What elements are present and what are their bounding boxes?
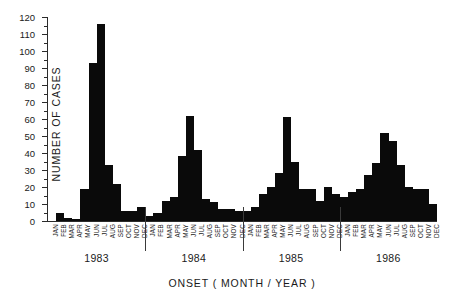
bar-series bbox=[48, 17, 437, 221]
x-tick-cell: JUL bbox=[194, 224, 202, 250]
bar bbox=[243, 211, 251, 221]
y-tick-minor bbox=[44, 213, 47, 214]
x-tick-cell: SEP bbox=[308, 224, 316, 250]
bar bbox=[267, 187, 275, 221]
x-tick-cell: APR bbox=[364, 224, 372, 250]
x-tick-cell: NOV bbox=[324, 224, 332, 250]
x-tick-cell: OCT bbox=[413, 224, 421, 250]
bar bbox=[137, 207, 145, 221]
y-tick-label: 20 bbox=[24, 182, 35, 193]
y-tick-label: 10 bbox=[24, 199, 35, 210]
y-tick-major: 70 bbox=[42, 102, 47, 103]
x-tick-cell: AUG bbox=[299, 224, 307, 250]
x-tick-cell: APR bbox=[72, 224, 80, 250]
bar bbox=[380, 133, 388, 221]
bar bbox=[178, 156, 186, 221]
x-tick-cell: JUL bbox=[291, 224, 299, 250]
x-tick-cell: NOV bbox=[129, 224, 137, 250]
x-tick-cell: AUG bbox=[202, 224, 210, 250]
x-tick-cell: APR bbox=[267, 224, 275, 250]
y-tick-major: 50 bbox=[42, 136, 47, 137]
x-tick-cell: DEC bbox=[332, 224, 340, 250]
y-tick-major: 0 bbox=[42, 221, 47, 222]
x-tick-cell: FEB bbox=[251, 224, 259, 250]
y-tick-minor bbox=[44, 162, 47, 163]
bar bbox=[226, 209, 234, 221]
bar bbox=[72, 219, 80, 221]
bar bbox=[405, 187, 413, 221]
y-tick-minor bbox=[44, 145, 47, 146]
x-tick-cell: OCT bbox=[316, 224, 324, 250]
x-tick-cell: JUL bbox=[97, 224, 105, 250]
bar bbox=[316, 201, 324, 221]
bar bbox=[332, 194, 340, 221]
x-tick-cell: MAR bbox=[259, 224, 267, 250]
year-separator bbox=[145, 207, 146, 251]
plot-area: 0102030405060708090100110120 bbox=[47, 17, 437, 222]
x-tick-cell: JUN bbox=[283, 224, 291, 250]
bar bbox=[80, 189, 88, 221]
y-tick-label: 80 bbox=[24, 80, 35, 91]
y-tick-label: 70 bbox=[24, 97, 35, 108]
year-label: 1985 bbox=[243, 252, 340, 264]
x-tick-cell: JAN bbox=[340, 224, 348, 250]
bar bbox=[389, 141, 397, 221]
y-tick-major: 10 bbox=[42, 204, 47, 205]
bar bbox=[340, 197, 348, 221]
y-tick-minor bbox=[44, 77, 47, 78]
x-tick-cell: JAN bbox=[145, 224, 153, 250]
y-tick-minor bbox=[44, 60, 47, 61]
bar bbox=[421, 189, 429, 221]
bar bbox=[259, 194, 267, 221]
chart-figure: NUMBER OF CASES 010203040506070809010011… bbox=[0, 0, 453, 301]
y-tick-minor bbox=[44, 43, 47, 44]
bar bbox=[97, 24, 105, 221]
y-tick-minor bbox=[44, 196, 47, 197]
bar bbox=[251, 207, 259, 221]
bar bbox=[299, 189, 307, 221]
x-tick-cell: OCT bbox=[121, 224, 129, 250]
x-tick-cell: JAN bbox=[48, 224, 56, 250]
y-tick-major: 100 bbox=[42, 51, 47, 52]
y-tick-label: 100 bbox=[19, 46, 35, 57]
bar bbox=[105, 165, 113, 221]
x-tick-cell: MAR bbox=[162, 224, 170, 250]
x-tick-cell: AUG bbox=[397, 224, 405, 250]
x-tick-cell: JUN bbox=[186, 224, 194, 250]
x-tick-cell: FEB bbox=[56, 224, 64, 250]
bar bbox=[145, 216, 153, 221]
bar bbox=[364, 175, 372, 221]
x-tick-cell: MAY bbox=[275, 224, 283, 250]
bar bbox=[348, 192, 356, 221]
x-tick-cell: OCT bbox=[218, 224, 226, 250]
x-tick-cell: SEP bbox=[113, 224, 121, 250]
x-tick-cell: SEP bbox=[210, 224, 218, 250]
bar bbox=[397, 165, 405, 221]
x-tick-cell: MAR bbox=[356, 224, 364, 250]
year-separator bbox=[243, 207, 244, 251]
bar bbox=[162, 201, 170, 221]
y-tick-major: 90 bbox=[42, 68, 47, 69]
bar bbox=[194, 150, 202, 221]
y-tick-major: 20 bbox=[42, 187, 47, 188]
x-tick-cell: NOV bbox=[226, 224, 234, 250]
x-tick-cell: MAR bbox=[64, 224, 72, 250]
x-tick-cell: FEB bbox=[153, 224, 161, 250]
x-tick-cell: DEC bbox=[137, 224, 145, 250]
y-tick-label: 120 bbox=[19, 12, 35, 23]
bar bbox=[113, 184, 121, 221]
x-tick-cell: DEC bbox=[235, 224, 243, 250]
y-tick-label: 90 bbox=[24, 63, 35, 74]
bar bbox=[324, 187, 332, 221]
bar bbox=[202, 199, 210, 221]
x-tick-cell: NOV bbox=[421, 224, 429, 250]
bar bbox=[64, 218, 72, 221]
y-tick-major: 120 bbox=[42, 17, 47, 18]
y-tick-major: 80 bbox=[42, 85, 47, 86]
bar bbox=[291, 162, 299, 222]
bar bbox=[129, 211, 137, 221]
year-label: 1986 bbox=[340, 252, 437, 264]
y-tick-label: 50 bbox=[24, 131, 35, 142]
y-tick-major: 30 bbox=[42, 170, 47, 171]
y-tick-minor bbox=[44, 111, 47, 112]
